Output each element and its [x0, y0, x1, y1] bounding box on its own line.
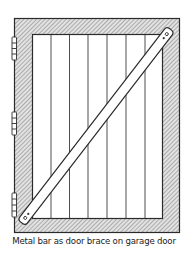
figure-caption: Metal bar as door brace on garage door: [0, 236, 188, 246]
hinge-bottom: [12, 193, 17, 217]
hinge-top: [12, 37, 17, 60]
garage-door-diagram: [0, 0, 188, 256]
hinge-middle: [12, 112, 17, 135]
